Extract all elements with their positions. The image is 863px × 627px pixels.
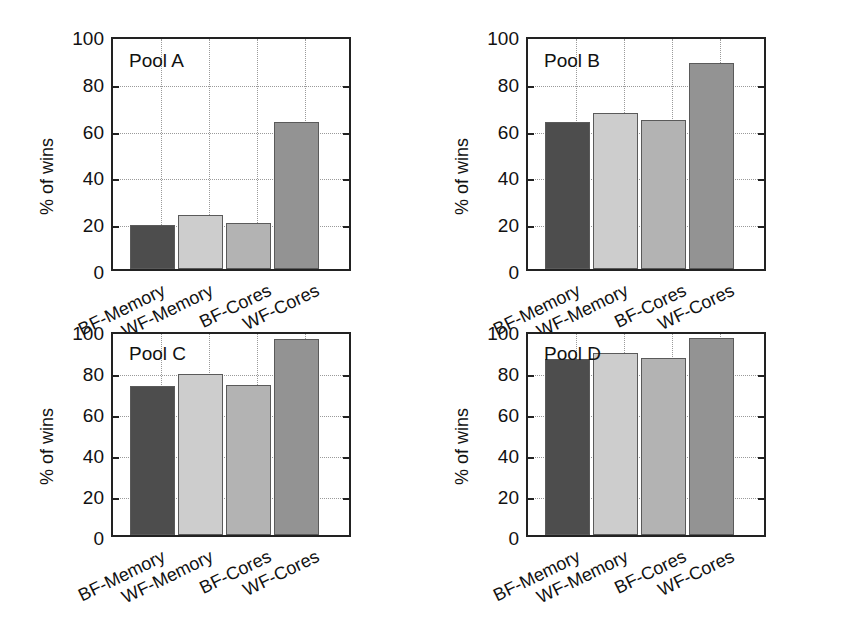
figure-multi-panel-bar-charts: % of wins Pool A [0,0,863,627]
ytick-label-c-40: 40 [62,447,104,466]
bar-bf-cores-c [226,385,271,535]
ytick-20-right-d [758,498,765,500]
bar-wf-memory-b [593,113,638,269]
panel-pool-b: % of wins Pool B 100 80 60 4 [430,0,863,315]
plot-area-d: Pool D [526,332,766,537]
y-axis-title-d: % of wins [453,408,471,485]
ytick-label-d-100: 100 [477,324,519,343]
ytick-60-a [112,133,119,135]
ytick-label-b-40: 40 [477,169,519,188]
ytick-label-c-20: 20 [62,488,104,507]
ytick-60-b [527,133,534,135]
ytick-80-right-b [758,86,765,88]
ytick-label-d-60: 60 [477,406,519,425]
bar-bf-cores-b [641,120,686,269]
plot-area-b: Pool B [526,37,766,271]
y-axis-title-c: % of wins [38,408,56,485]
ytick-label-b-80: 80 [477,76,519,95]
ytick-20-right-a [343,226,350,228]
ytick-label-b-100: 100 [477,29,519,48]
panel-pool-d: % of wins Pool D 100 80 60 4 [430,300,863,627]
ytick-label-c-100: 100 [62,324,104,343]
y-axis-title-a: % of wins [38,138,56,215]
panel-title-d: Pool D [544,344,601,363]
ytick-label-c-60: 60 [62,406,104,425]
bar-wf-cores-c [274,339,319,535]
ytick-20-right-c [343,498,350,500]
ytick-40-right-c [343,457,350,459]
ytick-label-b-20: 20 [477,216,519,235]
ytick-40-right-a [343,179,350,181]
ytick-40-right-d [758,457,765,459]
ytick-label-a-100: 100 [62,29,104,48]
ytick-label-d-0: 0 [477,529,519,548]
ytick-label-b-60: 60 [477,123,519,142]
ytick-label-a-0: 0 [62,263,104,282]
ytick-40-d [527,457,534,459]
ytick-20-c [112,498,119,500]
ytick-60-d [527,416,534,418]
ytick-label-a-20: 20 [62,216,104,235]
ytick-60-c [112,416,119,418]
ytick-80-c [112,375,119,377]
ytick-label-c-80: 80 [62,365,104,384]
ytick-80-right-a [343,86,350,88]
panel-title-a: Pool A [129,51,184,70]
bar-bf-memory-b [545,122,590,269]
ytick-40-a [112,179,119,181]
ytick-80-right-d [758,375,765,377]
ytick-60-right-a [343,133,350,135]
bar-wf-cores-b [689,63,734,269]
ytick-label-a-40: 40 [62,169,104,188]
y-axis-title-b: % of wins [453,138,471,215]
ytick-label-a-80: 80 [62,76,104,95]
bar-bf-memory-a [130,225,175,270]
plot-area-c: Pool C [111,332,351,537]
gridline-y-80-a [113,86,349,87]
ytick-80-d [527,375,534,377]
bar-wf-cores-a [274,122,319,269]
ytick-80-b [527,86,534,88]
ytick-40-right-b [758,179,765,181]
bar-bf-memory-c [130,386,175,535]
bar-bf-cores-a [226,223,271,269]
panel-title-b: Pool B [544,51,600,70]
ytick-20-d [527,498,534,500]
ytick-40-b [527,179,534,181]
bar-wf-memory-d [593,353,638,536]
panel-pool-c: % of wins Pool C 100 80 60 4 [0,300,430,627]
plot-area-a: Pool A [111,37,351,271]
bar-bf-cores-d [641,358,686,535]
ytick-label-d-40: 40 [477,447,519,466]
ytick-20-a [112,226,119,228]
ytick-80-right-c [343,375,350,377]
ytick-80-a [112,86,119,88]
ytick-label-d-80: 80 [477,365,519,384]
ytick-40-c [112,457,119,459]
ytick-label-a-60: 60 [62,123,104,142]
ytick-label-b-0: 0 [477,263,519,282]
bar-wf-cores-d [689,338,734,535]
bar-wf-memory-c [178,374,223,535]
ytick-60-right-d [758,416,765,418]
ytick-60-right-b [758,133,765,135]
ytick-20-b [527,226,534,228]
bar-bf-memory-d [545,359,590,535]
panel-pool-a: % of wins Pool A [0,0,430,315]
ytick-label-c-0: 0 [62,529,104,548]
ytick-label-d-20: 20 [477,488,519,507]
ytick-20-right-b [758,226,765,228]
bar-wf-memory-a [178,215,223,269]
panel-title-c: Pool C [129,344,186,363]
ytick-60-right-c [343,416,350,418]
